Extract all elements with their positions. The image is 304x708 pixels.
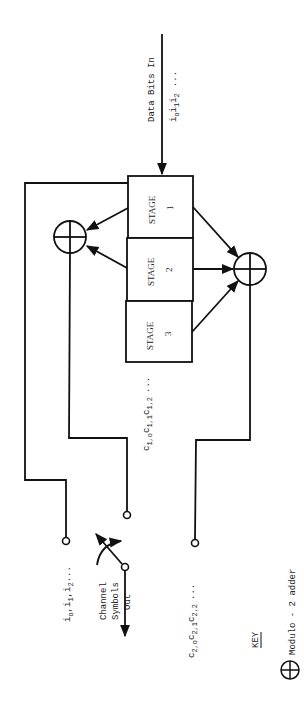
stage3-to-right-adder-arrow xyxy=(192,281,238,332)
svg-text:STAGE: STAGE xyxy=(147,195,157,224)
switch-arm xyxy=(96,534,122,564)
key-adder-label: Modulo - 2 adder xyxy=(288,569,298,655)
svg-text:Modulo - 2 adder: Modulo - 2 adder xyxy=(288,569,298,655)
svg-text:Channel: Channel xyxy=(99,582,109,620)
data-tap-terminal xyxy=(63,538,70,545)
svg-text:KEY: KEY xyxy=(251,631,261,648)
left-modulo2-adder xyxy=(54,221,86,253)
stage-1: STAGE 1 xyxy=(128,176,193,238)
svg-text:ioi1i2...: ioi1i2... xyxy=(169,71,181,122)
svg-text:c1,oc1,1c1,2...: c1,oc1,1c1,2... xyxy=(142,377,154,451)
key-title: KEY xyxy=(251,631,261,648)
svg-text:Symbols: Symbols xyxy=(111,582,121,620)
svg-text:c2,oc2,1c2,2...: c2,oc2,1c2,2... xyxy=(187,584,199,658)
c2-sequence: c2,oc2,1c2,2... xyxy=(187,584,199,658)
c1-terminal xyxy=(124,512,131,519)
stage1-to-right-adder-arrow xyxy=(193,207,238,257)
stage-2: STAGE 2 xyxy=(127,238,193,301)
svg-text:1: 1 xyxy=(165,206,175,211)
svg-text:io,i1,i2...: io,i1,i2... xyxy=(63,566,75,622)
svg-text:2: 2 xyxy=(164,268,174,273)
svg-text:3: 3 xyxy=(163,331,173,336)
svg-text:Data Bits In: Data Bits In xyxy=(147,57,157,122)
stage-3: STAGE 3 xyxy=(126,301,192,362)
c2-terminal xyxy=(192,540,199,547)
channel-symbols-label: Channel Symbols Out xyxy=(99,582,133,620)
key-adder-symbol-icon xyxy=(281,661,299,679)
switch-pivot xyxy=(122,564,129,571)
right-modulo2-adder xyxy=(234,253,266,285)
svg-text:STAGE: STAGE xyxy=(146,257,156,286)
svg-text:STAGE: STAGE xyxy=(145,321,155,350)
data-tap-sequence: io,i1,i2... xyxy=(63,566,75,622)
input-label: Data Bits In xyxy=(147,57,157,122)
encoder-diagram: Data Bits In ioi1i2... STAGE 1 STAGE 2 S… xyxy=(0,0,304,708)
stage2-to-left-adder-arrow xyxy=(87,246,127,268)
switch-rotation-arrow xyxy=(97,541,121,565)
c1-line xyxy=(69,253,127,511)
input-sequence: ioi1i2... xyxy=(169,71,181,122)
svg-text:Out: Out xyxy=(123,594,133,610)
c2-line xyxy=(195,285,250,539)
c1-sequence: c1,oc1,1c1,2... xyxy=(142,377,154,451)
stage1-to-left-adder-arrow xyxy=(87,208,128,230)
